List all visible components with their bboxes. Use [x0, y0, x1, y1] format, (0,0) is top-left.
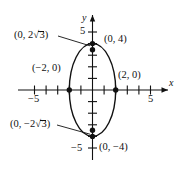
point-label-2-0: (2, 0) — [118, 70, 141, 81]
y-tick-label-positive-five: 5 — [80, 26, 85, 37]
radical-bar — [38, 31, 44, 32]
point-2-0 — [113, 87, 118, 92]
x-tick-label-negative-five: −5 — [28, 94, 39, 105]
point-label-0-neg4: (0, −4) — [99, 142, 128, 153]
point-0-2root3 — [90, 47, 95, 52]
radical-bar-bottom — [40, 120, 46, 121]
point-label-neg2-0: (−2, 0) — [32, 63, 61, 74]
point-label-0-neg2root3-open: (0, −2 — [10, 118, 35, 129]
point-label-0-2root3: (0, 2√3) — [14, 30, 48, 41]
y-tick-label-negative-five: −5 — [71, 143, 82, 154]
leader-line-bottom — [57, 125, 90, 134]
x-axis-label: x — [169, 78, 173, 88]
leader-line-top — [58, 36, 90, 46]
radical-three-top: √3 — [33, 30, 45, 41]
point-label-0-neg2root3-close: ) — [47, 118, 51, 129]
x-axis-arrow-icon — [162, 87, 169, 92]
point-label-0-2root3-close: ) — [45, 29, 49, 40]
y-axis-label: y — [82, 13, 86, 23]
ellipse-graph-figure: x y −5 5 5 −5 (0, 2√3) (0, 4) (−2, 0) (2… — [0, 0, 183, 172]
point-label-0-2root3-open: (0, 2 — [14, 29, 33, 40]
radical-three-bottom: √3 — [35, 119, 47, 130]
point-0-4 — [90, 41, 95, 46]
point-label-0-neg2root3: (0, −2√3) — [10, 119, 50, 130]
y-axis-arrow-icon — [90, 15, 95, 22]
point-0-neg2root3 — [90, 128, 95, 133]
point-label-0-4: (0, 4) — [104, 34, 127, 45]
graph-canvas — [0, 0, 183, 172]
point-neg2-0 — [67, 87, 72, 92]
x-tick-label-positive-five: 5 — [148, 94, 153, 105]
point-0-neg4 — [90, 134, 95, 139]
